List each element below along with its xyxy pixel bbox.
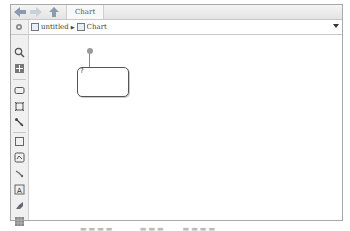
- breadcrumb-separator: ▶: [71, 20, 75, 34]
- table-icon[interactable]: [14, 216, 25, 227]
- address-gutter: [11, 20, 29, 34]
- state-icon[interactable]: [14, 85, 25, 96]
- state-label[interactable]: ?: [80, 67, 84, 75]
- hide-show-icon[interactable]: [15, 23, 23, 31]
- chart-editor-window: Chart untitled ▶ Chart A ?: [10, 4, 343, 221]
- forward-arrow-icon[interactable]: [29, 6, 43, 18]
- chart-canvas[interactable]: ?: [29, 35, 342, 220]
- annotation-icon[interactable]: [14, 200, 25, 211]
- caption-cutoff: ▬▬▬▬ ▬▬▬ ▬▬▬▬: [80, 225, 217, 231]
- back-arrow-icon[interactable]: [13, 6, 27, 18]
- default-transition-icon[interactable]: [14, 117, 25, 128]
- chevron-down-icon[interactable]: [333, 24, 339, 28]
- model-icon: [31, 23, 39, 31]
- palette-separator: [13, 132, 26, 133]
- breadcrumb-item-untitled[interactable]: untitled: [41, 20, 69, 34]
- box-icon[interactable]: [14, 101, 25, 112]
- default-transition-line[interactable]: [89, 54, 90, 67]
- svg-text:A: A: [17, 187, 22, 195]
- tab-chart[interactable]: Chart: [66, 5, 104, 19]
- matlab-function-icon[interactable]: [14, 168, 25, 179]
- default-transition-dot[interactable]: [87, 48, 93, 54]
- fit-view-icon[interactable]: [14, 63, 25, 74]
- palette-separator: [13, 79, 26, 80]
- history-junction-icon[interactable]: [14, 136, 25, 147]
- graphical-function-icon[interactable]: [14, 152, 25, 163]
- up-arrow-icon[interactable]: [47, 6, 61, 18]
- state-block[interactable]: ?: [77, 67, 129, 97]
- zoom-icon[interactable]: [14, 47, 25, 58]
- chart-icon: [77, 23, 85, 31]
- breadcrumb: untitled ▶ Chart: [31, 20, 107, 34]
- breadcrumb-item-chart[interactable]: Chart: [87, 20, 107, 34]
- object-palette: A: [11, 35, 29, 220]
- address-bar: untitled ▶ Chart: [11, 20, 342, 35]
- truth-table-icon[interactable]: A: [14, 184, 25, 195]
- toolbar: Chart: [11, 5, 342, 20]
